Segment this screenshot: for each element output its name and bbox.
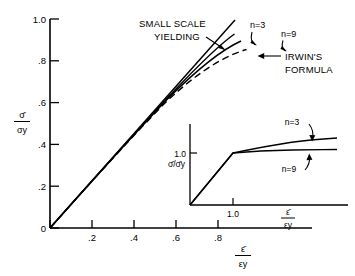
annotation-irwins-formula: IRWIN'S FORMULA bbox=[258, 51, 334, 75]
irwin-label-line1: IRWIN'S bbox=[285, 51, 322, 62]
inset-y-axis-label: σ̄/σ̄y bbox=[168, 159, 186, 169]
x-tick-label-.4: .4 bbox=[130, 232, 138, 243]
inset-x-axis-label-denominator: εy bbox=[284, 220, 293, 230]
main-y-axis-label: σ̄ σy bbox=[14, 110, 30, 135]
stress-strain-chart: 1.0 .8 .6 .4 .2 0 σ̄ σy .2 .4 .6 .8 bbox=[0, 0, 355, 276]
n3-label-main: n=3 bbox=[250, 20, 265, 30]
inset-x-axis-label-numerator: ε̄ bbox=[286, 207, 292, 217]
figure-container: 1.0 .8 .6 .4 .2 0 σ̄ σy .2 .4 .6 .8 bbox=[0, 0, 355, 276]
irwin-arrowhead bbox=[258, 53, 265, 59]
n3-label-inset: n=3 bbox=[285, 117, 300, 127]
annotation-n3-main: n=3 bbox=[250, 20, 265, 46]
annotation-n9-inset: n=9 bbox=[282, 154, 313, 175]
inset-curves bbox=[190, 138, 337, 205]
inset-x-tick-label: 1.0 bbox=[227, 209, 239, 219]
main-y-axis bbox=[50, 19, 59, 228]
n9-label-inset: n=9 bbox=[282, 164, 297, 174]
y-tick-label-.8: .8 bbox=[38, 55, 46, 66]
inset-x-axis-label: ε̄ εy bbox=[281, 207, 295, 230]
irwin-label-line2: FORMULA bbox=[285, 64, 333, 75]
ssy-label-line1: SMALL SCALE bbox=[139, 18, 206, 29]
x-tick-label-.2: .2 bbox=[88, 232, 96, 243]
n9-arrowhead-inset bbox=[306, 154, 312, 161]
main-x-tick-labels: .2 .4 .6 .8 bbox=[88, 232, 222, 243]
x-tick-label-.8: .8 bbox=[214, 232, 222, 243]
inset-y-axis-label: σ̄/σ̄y bbox=[168, 159, 186, 169]
inset-curve-n9 bbox=[190, 150, 337, 206]
main-curves bbox=[50, 20, 247, 228]
inset-curve-n3 bbox=[190, 138, 337, 205]
annotation-n9-main: n=9 bbox=[280, 29, 296, 52]
n9-label-main: n=9 bbox=[281, 29, 296, 39]
y-tick-label-.4: .4 bbox=[38, 139, 46, 150]
y-tick-label-0: 0 bbox=[41, 223, 46, 234]
x-axis-label-denominator: εy bbox=[239, 259, 248, 269]
curve-irwins-formula bbox=[50, 50, 247, 229]
y-axis-label-numerator: σ̄ bbox=[19, 110, 27, 120]
x-axis-label-numerator: ε̄ bbox=[241, 244, 247, 254]
y-tick-label-.2: .2 bbox=[38, 181, 46, 192]
main-x-axis bbox=[50, 220, 312, 228]
main-x-axis-label: ε̄ εy bbox=[235, 244, 251, 269]
y-tick-label-1.0: 1.0 bbox=[33, 14, 46, 25]
annotation-n3-inset: n=3 bbox=[285, 117, 316, 142]
inset-axes bbox=[190, 124, 348, 205]
y-tick-label-.6: .6 bbox=[38, 97, 46, 108]
x-tick-label-.6: .6 bbox=[172, 232, 180, 243]
ssy-label-line2: YIELDING bbox=[154, 31, 200, 42]
inset-y-tick-label: 1.0 bbox=[174, 149, 186, 159]
main-y-tick-labels: 1.0 .8 .6 .4 .2 0 bbox=[33, 14, 46, 234]
curve-n9 bbox=[50, 41, 241, 228]
y-axis-label-denominator: σy bbox=[17, 125, 28, 135]
